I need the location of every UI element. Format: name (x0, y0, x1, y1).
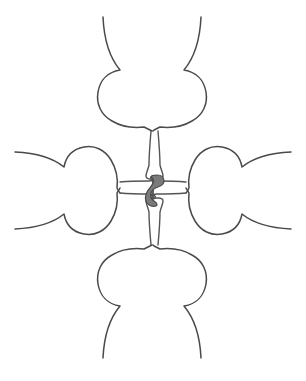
cruciform-diagram (0, 0, 306, 381)
figure-container (0, 0, 306, 381)
